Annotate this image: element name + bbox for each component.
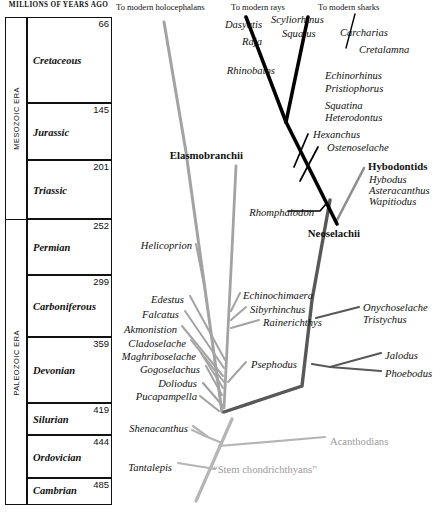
branch-sibyrhinchus [231,307,246,320]
branch-jalodus [312,353,381,367]
taxon-label-wapitiodus: Wapitiodus [369,197,416,208]
taxon-label-echinorhinus: Echinorhinus [325,71,382,82]
taxon-label-maghriboselache: Maghriboselache [122,352,196,363]
branch-rainerichthys [231,320,259,328]
group-label-stem-chondrichthyans: “Stem chondrichthyans” [213,465,317,476]
taxon-label-dasyatis: Dasyatis [225,20,262,31]
taxon-label-cretalamna: Cretalamna [359,45,409,56]
taxon-label-falcatus: Falcatus [142,310,179,321]
taxon-label-rhinobatos: Rhinobatos [227,66,275,77]
taxon-label-helicoprion: Helicoprion [141,241,192,252]
taxon-label-sibyrhinchus: Sibyrhinchus [250,305,305,316]
tree-header-to-modern-holocephalans: To modern holocephalans [116,3,205,12]
tree-header-to-modern-sharks: To modern sharks [318,3,379,12]
group-label-acanthodians: Acanthodians [330,437,388,448]
taxon-label-jalodus: Jalodus [385,351,418,362]
taxon-label-edestus: Edestus [151,295,184,306]
taxon-label-echinochimaera: Echinochimaera [243,291,313,302]
phylogenetic-tree: To modern holocephalansTo modern raysTo … [0,0,445,512]
taxon-label-carcharias: Carcharias [340,28,388,39]
taxon-label-onychoselache: Onychoselache [363,303,428,314]
taxon-label-heterodontus: Heterodontus [325,113,382,124]
branch-paraselachian-trunk [224,166,236,408]
taxon-label-phoebodus: Phoebodus [385,369,432,380]
branch-psephodus [228,362,246,382]
branch-hybodontids [336,168,364,222]
taxon-label-rhomphaiodon: Rhomphaiodon [249,208,314,219]
taxon-label-akmonistion: Akmonistion [124,325,177,336]
clade-label-neoselachii: Neoselachii [308,228,360,239]
branch-acanthodians [219,437,325,446]
taxon-label-rainerichthys: Rainerichthys [263,318,322,329]
taxon-label-scyliorhinus: Scyliorhinus [271,15,324,26]
taxon-label-doliodus: Doliodus [158,379,197,390]
taxon-label-psephodus: Psephodus [251,360,297,371]
taxon-label-tristychus: Tristychus [363,315,407,326]
clade-label-elasmobranchii: Elasmobranchii [170,150,243,161]
branch-tantalepis [178,463,215,469]
branch-phoebodus [330,367,381,371]
tree-header-to-modern-rays: To modern rays [231,3,285,12]
taxon-label-ostenoselache: Ostenoselache [327,143,389,154]
clade-label-hybodontids: Hybodontids [368,161,427,172]
taxon-label-squatina: Squatina [325,101,363,112]
branch-echinochimaera [231,293,240,311]
taxon-label-tantalepis: Tantalepis [128,463,172,474]
taxon-label-cladoselache: Cladoselache [128,339,186,350]
taxon-label-pucapampella: Pucapampella [136,392,197,403]
taxon-label-pristiophorus: Pristiophorus [325,84,383,95]
taxon-label-gogoselachus: Gogoselachus [140,365,200,376]
taxon-label-squalus: Squalus [282,29,316,40]
phylogeny-figure: MILLIONS OF YEARS AGO MESOZOIC ERAPALEOZ… [0,0,445,512]
taxon-label-raja: Raja [242,37,262,48]
taxon-label-hexanchus: Hexanchus [313,130,360,141]
taxon-label-shenacanthus: Shenacanthus [129,424,188,435]
branch-onychoselache [316,307,359,318]
